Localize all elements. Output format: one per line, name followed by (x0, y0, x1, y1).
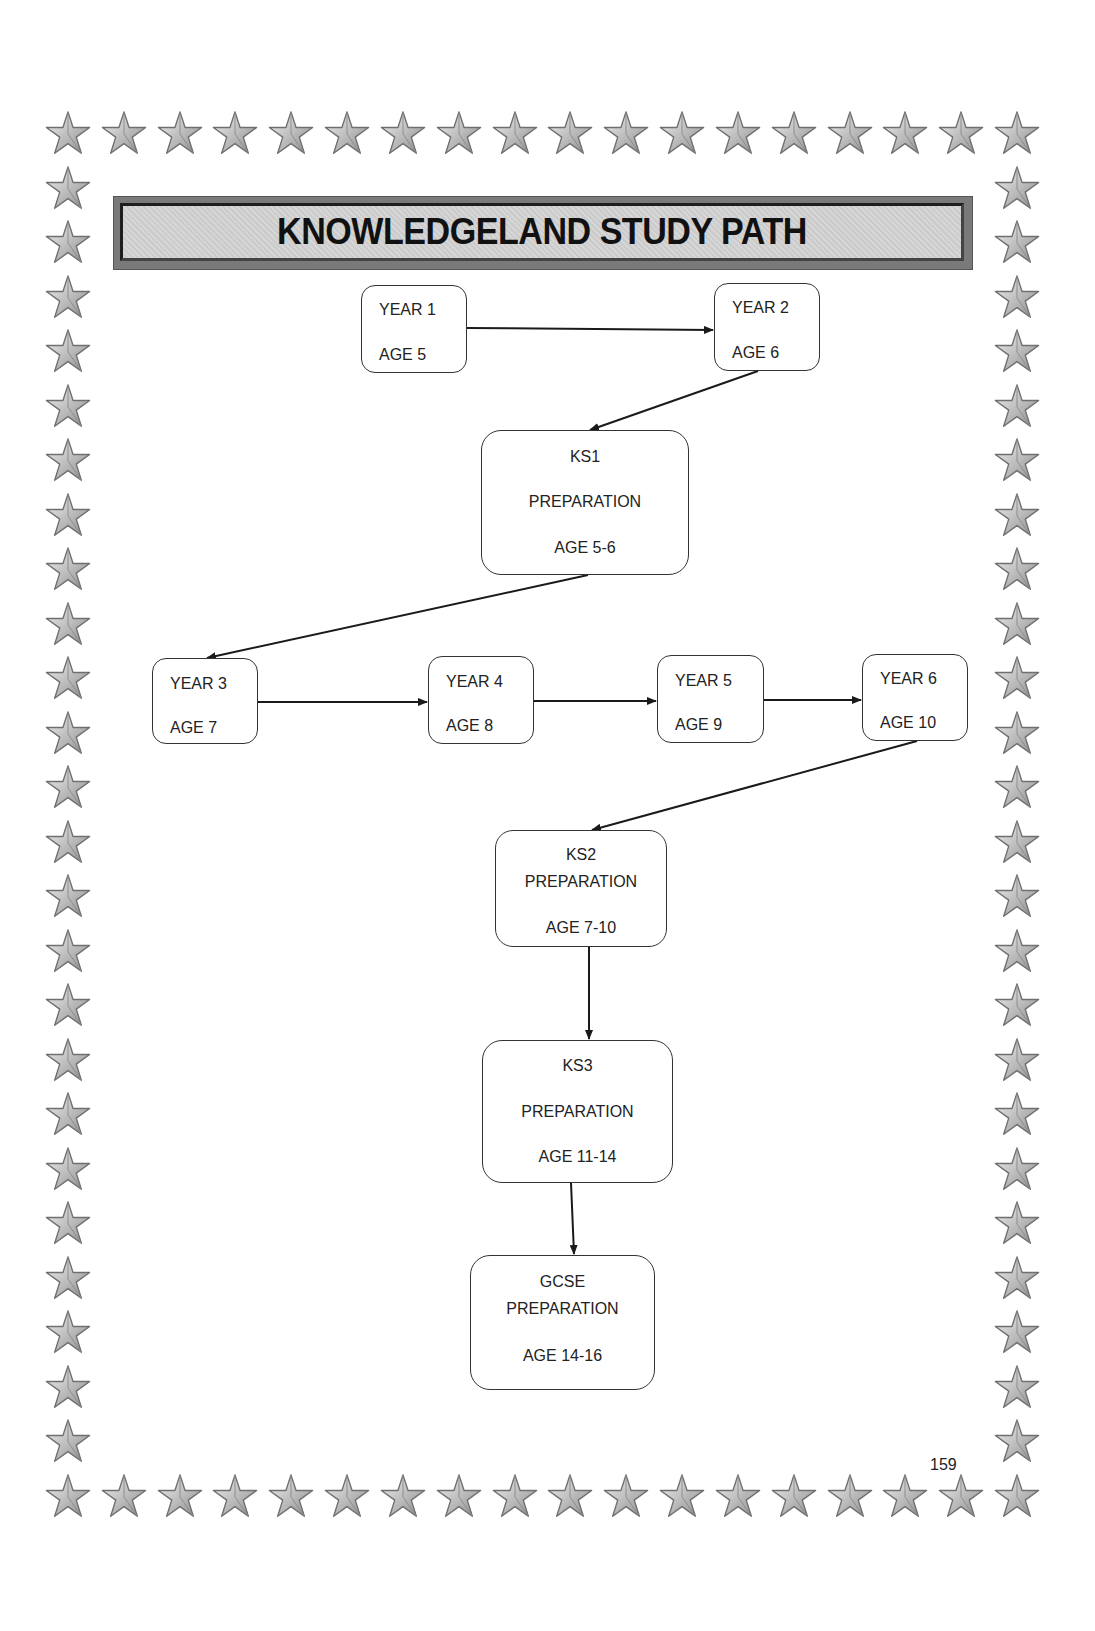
node-label: YEAR 5 (675, 672, 732, 690)
node-label: YEAR 6 (880, 670, 937, 688)
page-number: 159 (930, 1456, 957, 1474)
node-label: YEAR 3 (170, 675, 227, 693)
study-path-page: KNOWLEDGELAND STUDY PATH YEAR 1 AGE 5 YE… (0, 0, 1095, 1631)
node-label: YEAR 1 (379, 301, 436, 319)
node-label: KS2 (496, 846, 666, 864)
arrow-year2-ks1 (590, 371, 758, 430)
node-ks3: KS3 PREPARATION AGE 11-14 (482, 1040, 673, 1183)
node-ks1: KS1 PREPARATION AGE 5-6 (481, 430, 689, 575)
node-age: AGE 7-10 (496, 919, 666, 937)
node-subtitle: PREPARATION (482, 493, 688, 511)
node-age: AGE 9 (675, 716, 722, 734)
node-year-3: YEAR 3 AGE 7 (152, 658, 258, 744)
node-label: YEAR 4 (446, 673, 503, 691)
arrow-ks1-year3 (207, 575, 588, 658)
node-ks2: KS2 PREPARATION AGE 7-10 (495, 830, 667, 947)
node-age: AGE 7 (170, 719, 217, 737)
node-year-2: YEAR 2 AGE 6 (714, 283, 820, 371)
node-subtitle: PREPARATION (483, 1103, 672, 1121)
node-label: KS1 (482, 448, 688, 466)
node-age: AGE 14-16 (471, 1347, 654, 1365)
arrow-ks3-gcse (571, 1183, 574, 1254)
node-age: AGE 10 (880, 714, 936, 732)
node-age: AGE 11-14 (483, 1148, 672, 1166)
node-age: AGE 6 (732, 344, 779, 362)
node-subtitle: PREPARATION (471, 1300, 654, 1318)
node-age: AGE 8 (446, 717, 493, 735)
node-label: GCSE (471, 1273, 654, 1291)
node-year-4: YEAR 4 AGE 8 (428, 656, 534, 744)
arrow-year1-year2 (467, 328, 713, 330)
node-year-5: YEAR 5 AGE 9 (657, 655, 764, 743)
node-gcse: GCSE PREPARATION AGE 14-16 (470, 1255, 655, 1390)
node-subtitle: PREPARATION (496, 873, 666, 891)
node-year-1: YEAR 1 AGE 5 (361, 285, 467, 373)
node-age: AGE 5 (379, 346, 426, 364)
arrow-year6-ks2 (592, 741, 917, 830)
node-age: AGE 5-6 (482, 539, 688, 557)
node-year-6: YEAR 6 AGE 10 (862, 654, 968, 741)
node-label: KS3 (483, 1057, 672, 1075)
node-label: YEAR 2 (732, 299, 789, 317)
